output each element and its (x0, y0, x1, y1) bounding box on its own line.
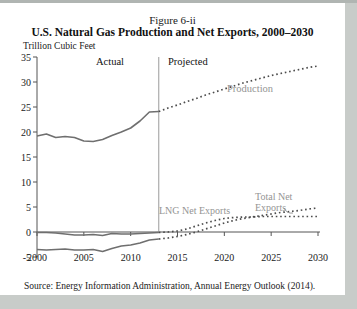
figure-caption: Figure 6-ii (0, 14, 345, 26)
y-tick-label: 20 (21, 127, 31, 138)
figure-title: U.S. Natural Gas Production and Net Expo… (0, 26, 345, 38)
y-tick-label: 25 (21, 102, 31, 113)
annotation-lng-net-exports: LNG Net Exports (159, 205, 230, 216)
y-tick-label: 30 (21, 77, 31, 88)
y-tick-label: 5 (26, 202, 31, 213)
annotation-production: Production (227, 83, 273, 94)
annotation-total-net-line1: Total Net (255, 191, 292, 202)
y-tick-label: 15 (21, 152, 31, 163)
annotation-actual: Actual (96, 56, 124, 67)
y-tick-label: 35 (21, 52, 31, 63)
series-lng-net-exports-actual- (37, 233, 159, 236)
x-tick-label: 2020 (214, 252, 234, 263)
y-axis-units-label: Trillion Cubic Feet (23, 41, 96, 51)
page-background: { "figure": { "caption": "Figure 6-ii", … (0, 0, 357, 309)
annotation-total-net-line2: Exports (255, 202, 286, 213)
series-production-actual- (37, 112, 159, 142)
x-tick-label: 2005 (74, 252, 94, 263)
series-lng-net-exports-projected- (159, 217, 318, 233)
x-tick-label: 2030 (308, 252, 328, 263)
y-tick-label: 10 (21, 177, 31, 188)
y-tick-label: 0 (26, 227, 31, 238)
series-total-net-exports-actual- (37, 239, 159, 252)
annotation-projected: Projected (168, 56, 208, 67)
x-tick-label: 2025 (261, 252, 281, 263)
source-note: Source: Energy Information Administratio… (24, 281, 315, 291)
x-tick-label: 2010 (121, 252, 141, 263)
axes (33, 57, 320, 257)
x-tick-label: 2015 (168, 252, 188, 263)
x-tick-label: 2000 (27, 252, 47, 263)
